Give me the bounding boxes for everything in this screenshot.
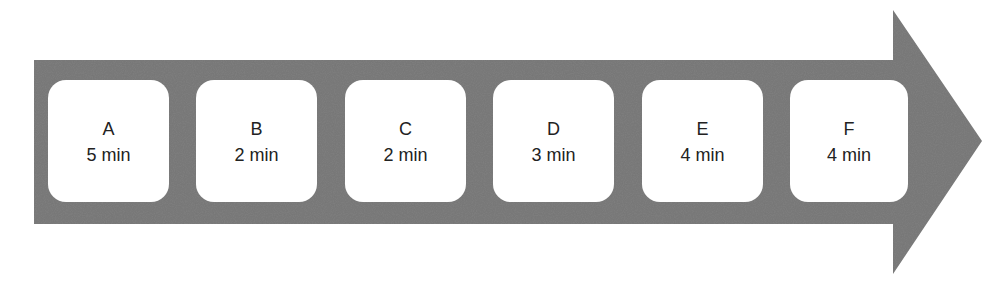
step-label: F xyxy=(844,118,855,140)
step-box-e: E 4 min xyxy=(642,80,763,202)
step-box-b: B 2 min xyxy=(196,80,317,202)
step-duration: 5 min xyxy=(86,143,130,167)
step-label: D xyxy=(547,118,560,140)
step-label: E xyxy=(696,118,708,140)
step-label: C xyxy=(399,118,412,140)
step-label: B xyxy=(250,118,262,140)
step-duration: 4 min xyxy=(827,143,871,167)
step-box-a: A 5 min xyxy=(48,80,169,202)
step-duration: 4 min xyxy=(680,143,724,167)
step-box-f: F 4 min xyxy=(790,80,908,202)
step-duration: 2 min xyxy=(234,143,278,167)
step-box-c: C 2 min xyxy=(345,80,466,202)
step-box-d: D 3 min xyxy=(493,80,614,202)
step-label: A xyxy=(102,118,114,140)
step-duration: 3 min xyxy=(531,143,575,167)
step-duration: 2 min xyxy=(383,143,427,167)
